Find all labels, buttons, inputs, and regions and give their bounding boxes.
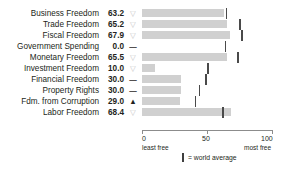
world-average-tick	[199, 85, 201, 96]
world-average-tick	[226, 8, 228, 19]
world-average-tick	[222, 107, 224, 118]
legend-label: = world average	[188, 153, 237, 162]
indicator-plot	[142, 107, 272, 118]
world-average-tick	[225, 41, 227, 52]
economic-freedom-chart: COUNTRY RANKINGS FOR ECONOMIC FREEDOM Bu…	[0, 0, 282, 170]
indicator-label: Investment Freedom	[0, 63, 99, 74]
indicator-plot	[142, 41, 272, 52]
world-average-tick	[205, 74, 207, 85]
page-title: COUNTRY RANKINGS FOR ECONOMIC FREEDOM	[0, 0, 282, 2]
indicator-row: Government Spending0.0—	[0, 41, 282, 52]
indicator-plot	[142, 8, 272, 19]
indicator-score: 30.0	[99, 85, 124, 96]
indicator-label: Monetary Freedom	[0, 52, 99, 63]
indicator-score: 10.0	[99, 63, 124, 74]
world-average-tick	[237, 52, 239, 63]
indicator-plot	[142, 85, 272, 96]
indicator-score: 65.2	[99, 19, 124, 30]
world-average-tick	[241, 30, 243, 41]
indicator-score: 0.0	[99, 41, 124, 52]
indicator-plot	[142, 74, 272, 85]
score-bar	[142, 86, 181, 94]
indicator-row: Property Rights30.0—	[0, 85, 282, 96]
score-bar	[142, 9, 224, 17]
trend-down-icon: ▽	[127, 52, 139, 63]
trend-up-icon: ▲	[127, 96, 139, 107]
indicator-score: 65.5	[99, 52, 124, 63]
indicator-plot	[142, 63, 272, 74]
indicator-label: Fdm. from Corruption	[0, 96, 99, 107]
indicator-score: 67.9	[99, 30, 124, 41]
indicator-label: Fiscal Freedom	[0, 30, 99, 41]
indicator-row: Trade Freedom65.2▽	[0, 19, 282, 30]
score-bar	[142, 108, 231, 116]
world-average-tick-icon	[182, 153, 184, 162]
trend-down-icon: ▽	[127, 19, 139, 30]
indicator-score: 30.0	[99, 74, 124, 85]
axis-caption-most-free: most free	[244, 143, 271, 152]
indicator-row: Monetary Freedom65.5▽	[0, 52, 282, 63]
indicator-label: Financial Freedom	[0, 74, 99, 85]
indicator-score: 63.2	[99, 8, 124, 19]
trend-down-icon: ▽	[127, 30, 139, 41]
trend-down-icon: ▽	[127, 107, 139, 118]
chart-title-clipped: COUNTRY RANKINGS FOR ECONOMIC FREEDOM	[0, 0, 282, 2]
indicator-row: Fdm. from Corruption29.0▲	[0, 96, 282, 107]
axis-tick-label: 0	[142, 134, 146, 143]
indicator-label: Trade Freedom	[0, 19, 99, 30]
axis-caption-least-free: least free	[142, 143, 169, 152]
indicator-plot	[142, 19, 272, 30]
axis-tick-label: 100	[261, 134, 273, 143]
world-average-tick	[207, 63, 209, 74]
indicator-plot	[142, 96, 272, 107]
trend-down-icon: ▽	[127, 63, 139, 74]
indicator-label: Business Freedom	[0, 8, 99, 19]
trend-flat-icon: —	[127, 85, 139, 96]
indicator-score: 29.0	[99, 96, 124, 107]
score-bar	[142, 20, 227, 28]
indicator-row: Financial Freedom30.0—	[0, 74, 282, 85]
score-bar	[142, 97, 180, 105]
indicator-row: Investment Freedom10.0▽	[0, 63, 282, 74]
indicator-plot	[142, 52, 272, 63]
indicator-plot	[142, 30, 272, 41]
trend-flat-icon: —	[127, 41, 139, 52]
indicator-row: Fiscal Freedom67.9▽	[0, 30, 282, 41]
score-bar	[142, 75, 181, 83]
indicator-row-list: Business Freedom63.2▽Trade Freedom65.2▽F…	[0, 8, 282, 118]
indicator-score: 68.4	[99, 107, 124, 118]
indicator-row: Labor Freedom68.4▽	[0, 107, 282, 118]
score-bar	[142, 53, 227, 61]
score-bar	[142, 64, 155, 72]
axis-tick-label: 50	[202, 134, 210, 143]
indicator-row: Business Freedom63.2▽	[0, 8, 282, 19]
indicator-label: Labor Freedom	[0, 107, 99, 118]
world-average-tick	[195, 96, 197, 107]
score-bar	[142, 31, 230, 39]
trend-down-icon: ▽	[127, 8, 139, 19]
world-average-tick	[239, 19, 241, 30]
indicator-label: Government Spending	[0, 41, 99, 52]
indicator-label: Property Rights	[0, 85, 99, 96]
trend-flat-icon: —	[127, 74, 139, 85]
